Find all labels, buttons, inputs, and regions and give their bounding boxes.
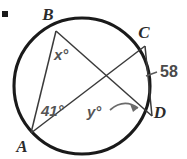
circle-outline xyxy=(14,18,150,154)
vertex-label-d: D xyxy=(153,103,166,122)
angle-label-41: 41° xyxy=(40,102,65,119)
corner-tick-mark xyxy=(2,11,8,17)
geometry-figure: B C D A x° 41° y° 58 xyxy=(0,0,187,159)
angle-label-y: y° xyxy=(86,103,102,120)
vertex-label-c: C xyxy=(138,23,150,42)
vertex-label-b: B xyxy=(41,5,53,24)
angle-label-x: x° xyxy=(53,46,69,63)
arc-measure-label-58: 58 xyxy=(160,63,178,80)
vertex-label-a: A xyxy=(15,137,27,156)
geometry-canvas: B C D A x° 41° y° 58 xyxy=(0,0,187,159)
